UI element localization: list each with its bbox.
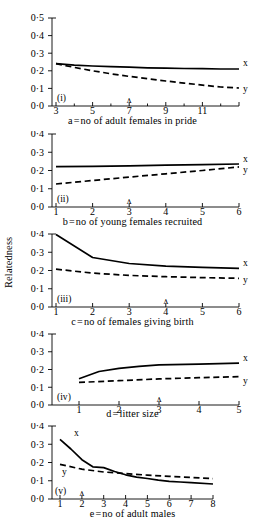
panel-i-plot: 0·0 0·1 0·2 0·3 0·4 0·5 3 5 7 9 11 ʌ (i)… — [0, 14, 265, 114]
series-y-line — [56, 167, 239, 184]
series-x-line — [60, 439, 213, 484]
xtick-label: 9 — [163, 105, 168, 114]
ytick-label: 0·2 — [31, 65, 44, 76]
series-label-x: x — [243, 352, 248, 363]
panel-roman-numeral: (v) — [55, 485, 66, 497]
panel-v: 0·0 0·1 0·2 0·3 0·4 1 2 3 4 5 6 7 8 ʌ (v… — [0, 423, 265, 507]
ytick-label: 0·1 — [31, 283, 44, 294]
ytick-label: 0·1 — [31, 475, 44, 486]
series-label-y: y — [243, 274, 248, 285]
xtick-label: 4 — [163, 306, 168, 315]
xtick-label: 6 — [237, 206, 242, 215]
series-label-x: x — [243, 153, 248, 164]
xtick-label: 1 — [58, 498, 63, 507]
series-label-x: x — [243, 257, 248, 268]
ytick-label: 0·0 — [31, 493, 44, 504]
ytick-label: 0·2 — [31, 364, 44, 375]
ytick-label: 0·1 — [31, 83, 44, 94]
ytick-label: 0·3 — [31, 247, 44, 258]
panel-v-plot: 0·0 0·1 0·2 0·3 0·4 1 2 3 4 5 6 7 8 ʌ (v… — [0, 423, 265, 507]
panel-roman-numeral: (iv) — [57, 391, 71, 403]
panel-ii-ytick-labels: 0·0 0·1 0·2 0·3 0·4 — [31, 131, 44, 212]
panel-iii-plot: 0·0 0·1 0·2 0·3 0·4 1 2 3 4 5 6 ʌ (iii) … — [0, 231, 265, 315]
xtick-label: 2 — [90, 206, 95, 215]
xtick-label: 6 — [167, 498, 172, 507]
xtick-label: 3 — [127, 206, 132, 215]
ytick-label: 0·4 — [31, 231, 44, 239]
ytick-label: 0·3 — [31, 346, 44, 357]
arrow-marker: ʌ — [157, 394, 162, 404]
ytick-label: 0·3 — [31, 147, 44, 158]
panel-i-ytick-labels: 0·0 0·1 0·2 0·3 0·4 0·5 — [31, 14, 44, 111]
series-x-line — [79, 363, 239, 379]
xtick-label: 7 — [127, 105, 132, 114]
panel-i: 0·0 0·1 0·2 0·3 0·4 0·5 3 5 7 9 11 ʌ (i)… — [0, 14, 265, 114]
xtick-label: 3 — [101, 498, 106, 507]
panel-iv-axes — [48, 334, 239, 405]
ytick-label: 0·5 — [31, 14, 44, 23]
series-label-y: y — [243, 375, 248, 386]
ytick-label: 0·3 — [31, 48, 44, 59]
xtick-label: 7 — [189, 498, 194, 507]
ytick-label: 0·4 — [31, 131, 44, 139]
ytick-label: 0·1 — [31, 382, 44, 393]
xtick-label: 5 — [200, 306, 205, 315]
panel-v-axes — [48, 426, 213, 499]
panel-v-ytick-labels: 0·0 0·1 0·2 0·3 0·4 — [31, 423, 44, 504]
series-label-y: y — [62, 466, 67, 477]
panel-i-axes — [48, 18, 239, 106]
panel-iii-caption: c = no of females giving birth — [0, 317, 265, 327]
ytick-label: 0·4 — [31, 331, 44, 339]
ytick-label: 0·2 — [31, 457, 44, 468]
xtick-label: 11 — [198, 105, 208, 114]
xtick-label: 5 — [200, 206, 205, 215]
arrow-marker: ʌ — [163, 296, 168, 306]
panel-ii-plot: 0·0 0·1 0·2 0·3 0·4 1 2 3 4 5 6 ʌ (ii) x… — [0, 131, 265, 215]
xtick-label: 2 — [90, 306, 95, 315]
xtick-label: 3 — [127, 306, 132, 315]
panel-roman-numeral: (ii) — [57, 193, 69, 205]
panel-roman-numeral: (iii) — [57, 293, 71, 305]
xtick-label: 1 — [54, 206, 59, 215]
xtick-label: 3 — [54, 105, 59, 114]
series-label-x: x — [74, 427, 79, 438]
ytick-label: 0·1 — [31, 183, 44, 194]
series-label-y: y — [243, 83, 248, 94]
panel-ii: 0·0 0·1 0·2 0·3 0·4 1 2 3 4 5 6 ʌ (ii) x… — [0, 131, 265, 215]
xtick-label: 5 — [145, 498, 150, 507]
ytick-label: 0·2 — [31, 165, 44, 176]
series-x-line — [56, 64, 239, 69]
xtick-label: 1 — [54, 306, 59, 315]
panel-iv-caption: d = litter size — [0, 409, 265, 419]
series-y-line — [79, 377, 239, 383]
ytick-label: 0·4 — [31, 423, 44, 431]
panel-ii-caption: b = no of young females recruited — [0, 217, 265, 227]
panel-i-caption: a = no of adult females in pride — [0, 116, 265, 126]
xtick-label: 6 — [237, 306, 242, 315]
ytick-label: 0·0 — [31, 201, 44, 212]
panel-roman-numeral: (i) — [57, 92, 66, 104]
arrow-marker: ʌ — [127, 196, 132, 206]
panel-v-caption: e = no of adult males — [0, 509, 265, 519]
ytick-label: 0·3 — [31, 439, 44, 450]
series-x-line — [56, 235, 239, 269]
xtick-label: 4 — [163, 206, 168, 215]
ytick-label: 0·2 — [31, 265, 44, 276]
xtick-label: 2 — [79, 498, 84, 507]
xtick-label: 8 — [211, 498, 216, 507]
ytick-label: 0·0 — [31, 301, 44, 312]
series-label-y: y — [243, 164, 248, 175]
arrow-marker: ʌ — [127, 95, 132, 105]
panel-iii-axes — [48, 234, 239, 307]
series-label-x: x — [243, 57, 248, 68]
series-x-line — [56, 164, 239, 167]
xtick-label: 4 — [123, 498, 128, 507]
panel-iv-ytick-labels: 0·0 0·1 0·2 0·3 0·4 — [31, 331, 44, 410]
panel-iv-plot: 0·0 0·1 0·2 0·3 0·4 1 2 3 4 5 ʌ (iv) x y — [0, 331, 265, 413]
panel-iv: 0·0 0·1 0·2 0·3 0·4 1 2 3 4 5 ʌ (iv) x y — [0, 331, 265, 413]
ytick-label: 0·0 — [31, 100, 44, 111]
ytick-label: 0·4 — [31, 30, 44, 41]
series-y-line — [56, 269, 239, 278]
panel-iii-ytick-labels: 0·0 0·1 0·2 0·3 0·4 — [31, 231, 44, 312]
arrow-marker: ʌ — [80, 488, 85, 498]
